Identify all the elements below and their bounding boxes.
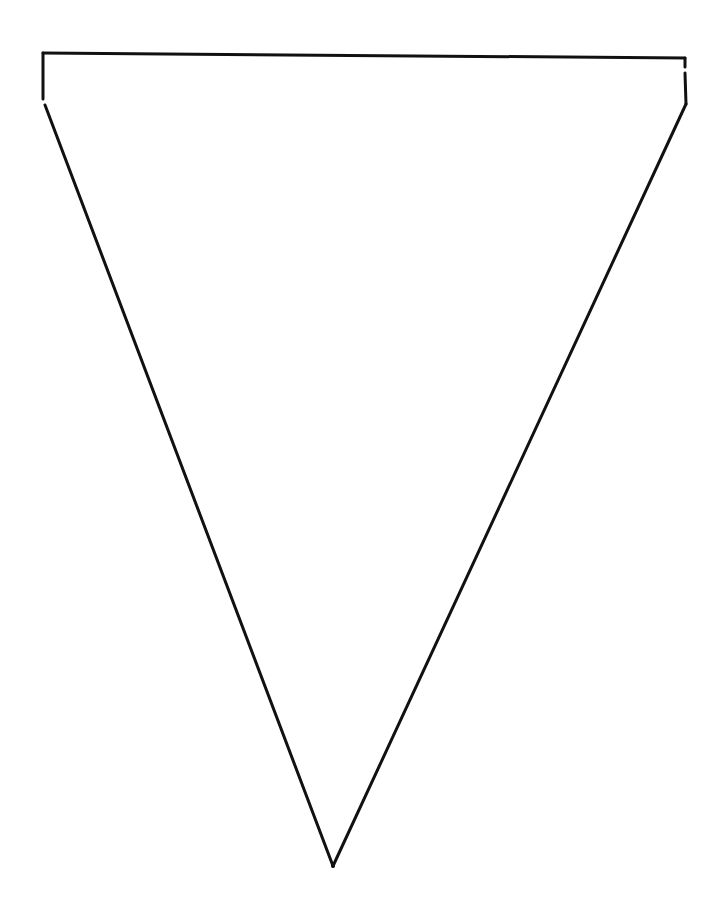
- pennant-outline: [43, 53, 686, 868]
- pennant-apex-point: [331, 864, 335, 868]
- pennant-right-side: [333, 104, 686, 866]
- pennant-top-edge: [43, 53, 685, 58]
- pennant-right-tab-lower: [685, 73, 686, 104]
- pennant-left-side: [45, 105, 333, 866]
- pennant-template-canvas: [0, 0, 707, 918]
